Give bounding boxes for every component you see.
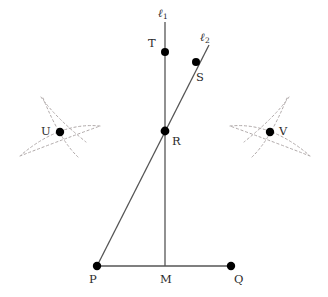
- lines-group: [97, 22, 231, 266]
- point-dot-U: [56, 128, 64, 136]
- line-l2-slanted: [97, 45, 209, 266]
- line-label-l1: ℓ1: [158, 8, 167, 19]
- point-label-P: P: [89, 274, 97, 286]
- geometry-canvas: [0, 0, 328, 297]
- point-dot-T: [161, 48, 169, 56]
- point-label-V: V: [279, 126, 287, 138]
- geometry-figure: ℓ1 ℓ2 T S R U V P M Q: [0, 0, 328, 297]
- point-label-S: S: [196, 72, 204, 84]
- point-dot-Q: [227, 262, 235, 270]
- point-dot-V: [266, 128, 274, 136]
- point-dot-S: [192, 58, 200, 66]
- point-dot-R: [161, 127, 170, 136]
- point-label-R: R: [172, 136, 181, 148]
- point-dot-P: [93, 262, 101, 270]
- line-label-l2: ℓ2: [200, 32, 209, 43]
- point-label-T: T: [148, 38, 156, 50]
- point-label-Q: Q: [234, 274, 243, 286]
- point-label-U: U: [41, 126, 51, 138]
- point-label-M: M: [160, 274, 172, 286]
